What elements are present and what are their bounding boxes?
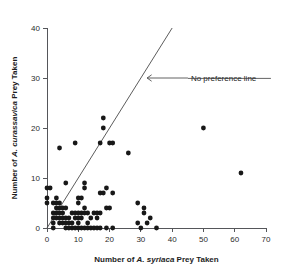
x-tick-label: 40 xyxy=(168,235,177,244)
data-point xyxy=(101,126,106,131)
x-tick-label: 0 xyxy=(45,235,50,244)
data-point xyxy=(95,216,100,221)
data-point xyxy=(45,196,50,201)
data-point xyxy=(145,221,150,226)
data-point xyxy=(148,216,153,221)
data-point xyxy=(98,211,103,216)
data-point xyxy=(142,211,147,216)
chart-figure: 010203040506070010203040 No preference l… xyxy=(0,0,286,277)
data-point xyxy=(82,186,87,191)
x-tick-label: 30 xyxy=(136,235,145,244)
data-point xyxy=(51,226,56,231)
data-point xyxy=(110,226,115,231)
data-point xyxy=(88,216,93,221)
data-point xyxy=(48,186,53,191)
data-point xyxy=(142,206,147,211)
y-tick-label: 30 xyxy=(31,74,40,83)
data-point xyxy=(98,226,103,231)
data-point xyxy=(63,206,68,211)
data-point xyxy=(98,141,103,146)
x-tick-label: 20 xyxy=(105,235,114,244)
y-tick-label: 10 xyxy=(31,174,40,183)
data-point xyxy=(76,221,81,226)
data-point xyxy=(45,201,50,206)
data-points-group xyxy=(45,116,244,231)
data-point xyxy=(79,196,84,201)
data-point xyxy=(57,146,62,151)
data-point xyxy=(57,201,62,206)
x-tick-label: 60 xyxy=(230,235,239,244)
y-tick-label: 20 xyxy=(31,124,40,133)
data-point xyxy=(154,226,159,231)
y-tick-label: 0 xyxy=(36,224,41,233)
x-axis-title: Number of A. syriaca Prey Taken xyxy=(94,255,218,264)
data-point xyxy=(70,221,75,226)
scatter-plot-svg: 010203040506070010203040 No preference l… xyxy=(0,0,286,277)
data-point xyxy=(201,126,206,131)
data-point xyxy=(82,206,87,211)
data-point xyxy=(126,151,131,156)
x-tick-label: 50 xyxy=(199,235,208,244)
x-tick-label: 10 xyxy=(74,235,83,244)
data-point xyxy=(110,141,115,146)
data-point xyxy=(135,221,140,226)
data-point xyxy=(104,226,109,231)
annotation-group: No preference line xyxy=(147,74,271,83)
y-tick-label: 40 xyxy=(31,24,40,33)
data-point xyxy=(79,216,84,221)
axes-group: 010203040506070010203040 xyxy=(31,24,271,244)
data-point xyxy=(239,171,244,176)
x-tick-label: 70 xyxy=(262,235,271,244)
data-point xyxy=(107,206,112,211)
axis-titles-group: Number of A. syriaca Prey TakenNumber of… xyxy=(10,57,219,264)
data-point xyxy=(76,201,81,206)
data-point xyxy=(135,201,140,206)
no-preference-line xyxy=(47,28,172,228)
data-point xyxy=(67,216,72,221)
data-point xyxy=(60,211,65,216)
data-point xyxy=(82,181,87,186)
data-point xyxy=(54,196,59,201)
data-point xyxy=(104,186,109,191)
data-point xyxy=(138,226,143,231)
data-point xyxy=(73,141,78,146)
y-axis-title: Number of A. curassavica Prey Taken xyxy=(10,57,19,200)
data-point xyxy=(63,181,68,186)
data-point xyxy=(101,116,106,121)
data-point xyxy=(51,221,56,226)
no-preference-line-group xyxy=(47,28,172,228)
data-point xyxy=(85,211,90,216)
data-point xyxy=(85,221,90,226)
data-point xyxy=(101,191,106,196)
data-point xyxy=(110,191,115,196)
